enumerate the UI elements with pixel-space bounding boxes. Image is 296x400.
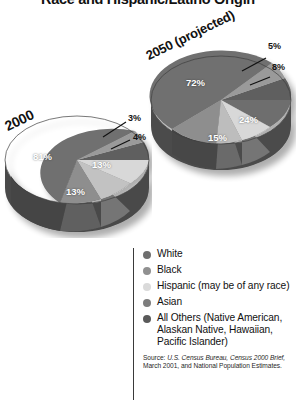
legend-item-hispanic: Hispanic (may be of any race) <box>143 280 296 292</box>
legend-label-asian: Asian <box>157 296 182 308</box>
slice-label-white-2000: 81% <box>33 151 52 162</box>
legend-label-black: Black <box>157 264 181 276</box>
legend-label-hispanic: Hispanic (may be of any race) <box>157 280 289 292</box>
slice-label-white-2050: 72% <box>186 77 205 88</box>
source-prefix: Source: <box>143 354 167 361</box>
slice-label-black-2000: 13% <box>66 186 85 197</box>
source-rest: March 2001, and National Population Esti… <box>143 362 282 369</box>
legend-swatch-asian-icon <box>143 299 151 307</box>
chart-stage: 72% 24% 15% 5% 8% 2050 (projected) <box>0 0 296 240</box>
legend-swatch-white-icon <box>143 251 151 259</box>
legend: White Black Hispanic (may be of any race… <box>133 248 296 400</box>
legend-item-white: White <box>143 248 296 260</box>
legend-label-white: White <box>157 248 183 260</box>
legend-item-asian: Asian <box>143 296 296 308</box>
source-note: Source: U.S. Census Bureau, Census 2000 … <box>143 354 296 370</box>
callout-label-all-others-2050: 5% <box>268 41 281 51</box>
callout-label-asian-2050: 8% <box>272 62 285 72</box>
legend-label-all-others: All Others (Native American, Alaskan Nat… <box>157 312 296 347</box>
legend-swatch-black-icon <box>143 267 151 275</box>
slice-label-hispanic-2050: 24% <box>239 114 258 125</box>
slice-label-black-2050: 15% <box>208 132 227 143</box>
callout-label-asian-2000: 4% <box>133 132 146 142</box>
legend-swatch-all-others-icon <box>143 315 151 323</box>
legend-swatch-hispanic-icon <box>143 283 151 291</box>
slice-label-hispanic-2000: 13% <box>92 159 111 170</box>
legend-item-black: Black <box>143 264 296 276</box>
source-publication: U.S. Census Bureau, Census 2000 Brief, <box>167 354 285 361</box>
callout-label-all-others-2000: 3% <box>128 113 141 123</box>
legend-item-all-others: All Others (Native American, Alaskan Nat… <box>143 312 296 347</box>
